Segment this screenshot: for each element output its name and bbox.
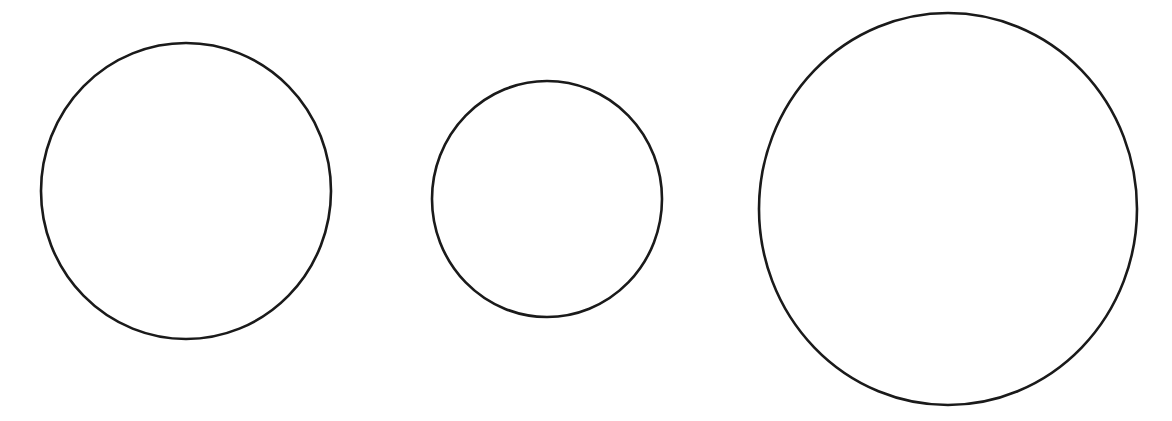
circle-right xyxy=(759,13,1137,405)
circle-left xyxy=(41,43,331,339)
circle-middle xyxy=(432,81,662,317)
diagram-canvas xyxy=(0,0,1172,421)
